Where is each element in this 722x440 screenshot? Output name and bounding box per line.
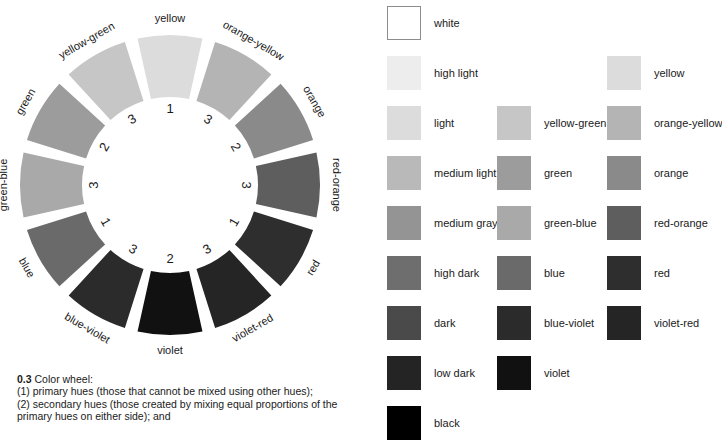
legend-item-white[interactable]: white [387, 6, 460, 40]
swatch-light [387, 106, 421, 140]
legend-item-yellow-green[interactable]: yellow-green [497, 106, 606, 140]
legend-label-red-orange: red-orange [654, 217, 708, 229]
legend-label-green: green [544, 167, 572, 179]
legend-item-black[interactable]: black [387, 406, 460, 440]
wheel-rank-yellow: 1 [166, 101, 173, 116]
wheel-rank-orange: 2 [228, 140, 245, 154]
wheel-rank-green: 2 [96, 140, 113, 154]
wheel-segment-violet[interactable] [138, 271, 203, 335]
legend-item-high dark[interactable]: high dark [387, 256, 479, 290]
wheel-label-violet: violet [157, 344, 183, 356]
legend-item-violet[interactable]: violet [497, 356, 570, 390]
wheel-label-blue: blue [17, 255, 38, 279]
legend-item-red[interactable]: red [607, 256, 670, 290]
legend-item-orange[interactable]: orange [607, 156, 688, 190]
legend-label-red: red [654, 267, 670, 279]
swatch-blue [497, 256, 531, 290]
color-wheel-figure: yellow1orange-yellow3orange2red-orange3r… [0, 0, 370, 370]
legend-label-low dark: low dark [434, 367, 475, 379]
legend-label-yellow: yellow [654, 67, 685, 79]
legend-label-dark: dark [434, 317, 455, 329]
swatch-violet-red [607, 306, 641, 340]
swatch-violet [497, 356, 531, 390]
wheel-rank-blue-violet: 3 [126, 241, 140, 258]
swatch-red-orange [607, 206, 641, 240]
wheel-rank-blue: 1 [98, 215, 115, 229]
swatch-high light [387, 56, 421, 90]
legend-item-blue[interactable]: blue [497, 256, 565, 290]
wheel-label-green: green [13, 86, 37, 116]
legend-label-violet-red: violet-red [654, 317, 699, 329]
swatch-blue-violet [497, 306, 531, 340]
legend-item-yellow[interactable]: yellow [607, 56, 685, 90]
legend-label-high dark: high dark [434, 267, 479, 279]
wheel-segment-red-orange[interactable] [256, 153, 320, 218]
wheel-rank-yellow-green: 3 [125, 111, 139, 128]
legend-item-light[interactable]: light [387, 106, 454, 140]
wheel-label-orange: orange [301, 84, 329, 120]
legend-label-white: white [434, 17, 460, 29]
wheel-rank-violet-red: 3 [200, 241, 214, 258]
swatch-red [607, 256, 641, 290]
color-legend: whitehigh lightlightmedium lightmedium g… [380, 0, 704, 430]
legend-label-yellow-green: yellow-green [544, 117, 606, 129]
swatch-green [497, 156, 531, 190]
swatch-yellow-green [497, 106, 531, 140]
legend-label-orange-yellow: orange-yellow [654, 117, 722, 129]
wheel-rank-orange-yellow: 3 [201, 111, 215, 128]
legend-label-medium light: medium light [434, 167, 496, 179]
legend-item-dark[interactable]: dark [387, 306, 455, 340]
legend-label-blue: blue [544, 267, 565, 279]
wheel-segment-green-blue[interactable] [20, 153, 84, 218]
caption-line-text-0: Color wheel: [35, 373, 93, 385]
legend-item-red-orange[interactable]: red-orange [607, 206, 708, 240]
legend-item-violet-red[interactable]: violet-red [607, 306, 699, 340]
swatch-yellow [607, 56, 641, 90]
swatch-medium light [387, 156, 421, 190]
swatch-medium gray [387, 206, 421, 240]
legend-item-medium light[interactable]: medium light [387, 156, 496, 190]
caption-line-1: (1) primary hues (those that cannot be m… [17, 385, 367, 397]
legend-label-blue-violet: blue-violet [544, 317, 594, 329]
caption-line-0: 0.3 Color wheel: [17, 373, 367, 385]
wheel-rank-violet: 2 [166, 251, 173, 266]
figure-caption: 0.3 Color wheel: (1) primary hues (those… [17, 373, 367, 423]
wheel-label-red: red [304, 258, 322, 278]
legend-item-green-blue[interactable]: green-blue [497, 206, 597, 240]
color-wheel-diagram: yellow1orange-yellow3orange2red-orange3r… [0, 0, 370, 370]
caption-line-3: primary hues on either side); and [17, 410, 367, 422]
legend-item-orange-yellow[interactable]: orange-yellow [607, 106, 722, 140]
swatch-low dark [387, 356, 421, 390]
wheel-label-green-blue: green-blue [0, 159, 9, 212]
legend-item-medium gray[interactable]: medium gray [387, 206, 498, 240]
legend-label-light: light [434, 117, 454, 129]
swatch-white [387, 6, 421, 40]
swatch-orange [607, 156, 641, 190]
swatch-dark [387, 306, 421, 340]
legend-label-violet: violet [544, 367, 570, 379]
caption-line-2: (2) secondary hues (those created by mix… [17, 398, 367, 410]
legend-item-green[interactable]: green [497, 156, 572, 190]
legend-label-high light: high light [434, 67, 478, 79]
legend-label-black: black [434, 417, 460, 429]
legend-item-blue-violet[interactable]: blue-violet [497, 306, 594, 340]
swatch-high dark [387, 256, 421, 290]
caption-number: 0.3 [17, 373, 32, 385]
legend-item-high light[interactable]: high light [387, 56, 478, 90]
wheel-rank-red-orange: 3 [239, 181, 254, 188]
legend-item-low dark[interactable]: low dark [387, 356, 475, 390]
swatch-black [387, 406, 421, 440]
wheel-segment-yellow[interactable] [138, 35, 203, 99]
wheel-rank-red: 1 [226, 215, 243, 229]
swatch-orange-yellow [607, 106, 641, 140]
wheel-rank-green-blue: 3 [86, 181, 101, 188]
legend-label-orange: orange [654, 167, 688, 179]
wheel-label-yellow: yellow [155, 12, 186, 24]
swatch-green-blue [497, 206, 531, 240]
wheel-label-red-orange: red-orange [331, 158, 343, 212]
legend-label-green-blue: green-blue [544, 217, 597, 229]
legend-label-medium gray: medium gray [434, 217, 498, 229]
